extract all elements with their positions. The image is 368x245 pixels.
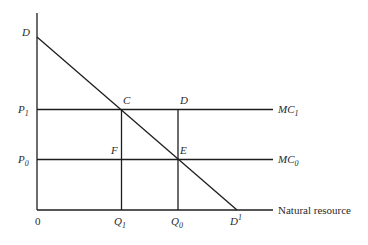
label-mc0: MC0 (277, 153, 299, 168)
label-q0: Q0 (171, 215, 183, 230)
label-demand-intercept: D (21, 26, 30, 38)
label-point-d: D (179, 94, 188, 106)
demand-curve (37, 37, 237, 210)
label-point-c: C (123, 94, 131, 106)
x-axis-label: Natural resource (278, 204, 351, 216)
label-origin: 0 (35, 215, 41, 227)
label-p1: P1 (17, 103, 29, 118)
label-point-e: E (179, 144, 187, 156)
label-p0: P0 (17, 153, 29, 168)
label-mc1: MC1 (277, 103, 299, 118)
label-point-f: F (110, 144, 118, 156)
label-demand-end: D1 (229, 213, 242, 227)
supply-demand-diagram: D P1 P0 0 Q1 Q0 D1 Natural resource MC1 … (0, 0, 368, 245)
diagram-canvas: D P1 P0 0 Q1 Q0 D1 Natural resource MC1 … (0, 0, 368, 245)
label-q1: Q1 (114, 215, 126, 230)
